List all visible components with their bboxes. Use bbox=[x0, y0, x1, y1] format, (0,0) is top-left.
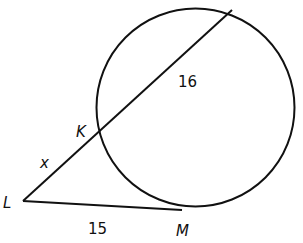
label-point-m: M bbox=[176, 222, 189, 240]
label-segment-lm: 15 bbox=[88, 220, 107, 238]
label-secant-inside: 16 bbox=[178, 73, 197, 91]
label-segment-x: x bbox=[39, 154, 49, 172]
label-point-k: K bbox=[76, 123, 87, 141]
label-point-l: L bbox=[3, 194, 11, 212]
secant-tangent-diagram: 16 K x L 15 M bbox=[0, 0, 303, 243]
secant-line bbox=[23, 10, 232, 201]
tangent-line bbox=[23, 201, 182, 210]
